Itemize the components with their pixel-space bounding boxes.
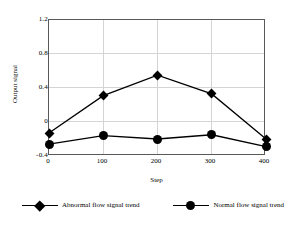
line-abnormal-flow [49, 75, 266, 139]
x-tick-label: 0 [33, 158, 63, 165]
diamond-marker-icon [22, 199, 58, 211]
plot-area [48, 19, 265, 155]
x-tick-label: 100 [87, 158, 117, 165]
data-point-marker [99, 131, 108, 140]
y-tick-label: 0.8 [8, 50, 48, 57]
data-point-marker [153, 135, 162, 144]
legend-entry-abnormal: Abnormal flow signal trend [22, 199, 140, 211]
x-tick-label: 200 [141, 158, 171, 165]
legend-label-normal: Normal flow signal trend [213, 201, 284, 209]
legend-entry-normal: Normal flow signal trend [173, 199, 284, 211]
y-tick-label: 0.4 [8, 84, 48, 91]
x-axis-title: Step [48, 176, 265, 184]
x-tick-label: 300 [195, 158, 225, 165]
legend-label-abnormal: Abnormal flow signal trend [62, 201, 140, 209]
y-tick-label: 0 [8, 118, 48, 125]
circle-marker-icon [173, 199, 209, 211]
chart-figure: Output signal 1.2 0.8 0.4 0 -0.4 0 100 2… [0, 0, 300, 225]
y-tick-label: 1.2 [8, 16, 48, 23]
data-point-marker [262, 142, 271, 151]
data-point-marker [45, 140, 54, 149]
chart-legend: Abnormal flow signal trend Normal flow s… [22, 196, 284, 214]
x-tick-label: 400 [249, 158, 279, 165]
